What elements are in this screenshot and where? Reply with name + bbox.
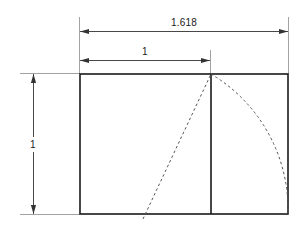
arrowhead-top-height: [31, 74, 36, 83]
arrowhead-bottom-height: [31, 205, 36, 214]
arrowhead-right-square-width: [201, 58, 210, 63]
arrowhead-right-total-width: [279, 29, 288, 34]
dimension-square-width: 1: [80, 45, 210, 63]
golden-rectangle: [80, 74, 288, 214]
construction-diagonal-dashed: [143, 74, 211, 219]
dimension-label-square-width: 1: [142, 46, 148, 57]
dimension-height: 1: [25, 74, 42, 214]
arrowhead-left-square-width: [80, 58, 89, 63]
construction-arc-dashed: [211, 74, 288, 214]
figure-canvas: 1.618 1 1: [0, 0, 302, 231]
dimension-total-width: 1.618: [80, 16, 288, 34]
dimension-label-height: 1: [30, 139, 36, 150]
arrowhead-left-total-width: [80, 29, 89, 34]
dimension-label-total-width: 1.618: [171, 17, 197, 28]
golden-ratio-figure: 1.618 1 1: [0, 0, 302, 231]
extension-lines: [20, 17, 289, 215]
